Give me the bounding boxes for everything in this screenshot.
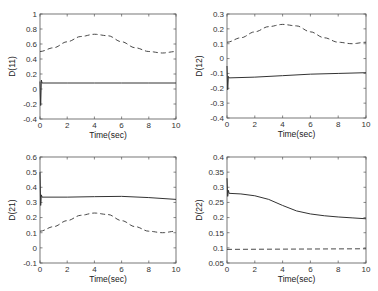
y-tick-label: 0.8	[26, 25, 38, 34]
x-tick-label: 6	[119, 121, 124, 130]
figure-canvas: 0246810-0.4-0.200.20.40.60.81Time(sec)D(…	[0, 0, 378, 291]
x-axis-label: Time(sec)	[278, 274, 316, 284]
y-tick-label: 0.35	[208, 168, 224, 177]
y-tick-label: 0.4	[213, 153, 225, 162]
axes-frame	[227, 157, 366, 263]
series-actual-line	[40, 213, 176, 233]
series-estimate-line	[227, 178, 366, 219]
x-tick-label: 6	[308, 265, 313, 274]
y-tick-label: -0.4	[210, 114, 224, 123]
y-axis-label: D(12)	[194, 55, 204, 76]
x-tick-label: 4	[92, 121, 97, 130]
x-tick-label: 10	[172, 121, 181, 130]
subplot-top-left: 0246810-0.4-0.200.20.40.60.81Time(sec)D(…	[7, 10, 181, 140]
y-tick-label: 0	[220, 54, 225, 63]
y-tick-label: 1	[33, 10, 38, 19]
series-actual-line	[40, 34, 176, 53]
series-estimate-line	[227, 66, 366, 90]
x-tick-label: 0	[225, 120, 230, 129]
x-tick-label: 2	[253, 265, 258, 274]
y-tick-label: 0.1	[213, 40, 225, 49]
y-tick-label: 0.15	[208, 229, 224, 238]
x-tick-label: 10	[172, 265, 181, 274]
y-axis-label: D(11)	[7, 56, 17, 77]
x-axis-label: Time(sec)	[89, 274, 127, 284]
y-tick-label: 0	[33, 85, 38, 94]
y-tick-label: 0.2	[213, 213, 225, 222]
y-tick-label: 0.3	[26, 198, 38, 207]
series-actual-line	[227, 24, 366, 43]
y-tick-label: -0.2	[210, 84, 224, 93]
y-tick-label: 0.6	[26, 40, 38, 49]
y-tick-label: 0.3	[213, 183, 225, 192]
x-tick-label: 4	[280, 265, 285, 274]
y-tick-label: -0.4	[23, 115, 37, 124]
y-tick-label: -0.1	[210, 69, 224, 78]
x-tick-label: 0	[225, 265, 230, 274]
y-tick-label: 0.2	[213, 25, 225, 34]
subplot-top-right: 0246810-0.4-0.3-0.2-0.100.10.20.3Time(se…	[194, 10, 371, 139]
x-tick-label: 10	[362, 120, 371, 129]
y-tick-label: 0.25	[208, 198, 224, 207]
x-tick-label: 8	[147, 265, 152, 274]
x-tick-label: 6	[308, 120, 313, 129]
series-actual-line	[227, 249, 366, 250]
x-tick-label: 6	[119, 265, 124, 274]
y-tick-label: 0.1	[213, 244, 225, 253]
x-tick-label: 4	[280, 120, 285, 129]
x-axis-label: Time(sec)	[278, 129, 316, 139]
x-tick-label: 10	[362, 265, 371, 274]
x-tick-label: 2	[65, 265, 70, 274]
axes-frame	[40, 157, 176, 263]
axes-frame	[40, 14, 176, 119]
y-tick-label: 0.6	[26, 153, 38, 162]
axes-frame	[227, 14, 366, 118]
y-tick-label: 0.1	[26, 229, 38, 238]
y-tick-label: 0.5	[26, 168, 38, 177]
y-tick-label: 0.4	[26, 183, 38, 192]
y-tick-label: 0.4	[26, 55, 38, 64]
y-tick-label: 0.3	[213, 10, 225, 19]
x-tick-label: 2	[253, 120, 258, 129]
x-tick-label: 8	[336, 120, 341, 129]
series-estimate-line	[40, 80, 176, 106]
x-tick-label: 2	[65, 121, 70, 130]
x-tick-label: 0	[38, 121, 43, 130]
y-axis-label: D(21)	[7, 199, 17, 220]
y-tick-label: -0.1	[23, 259, 37, 268]
y-tick-label: -0.2	[23, 100, 37, 109]
subplot-bottom-right: 02468100.050.10.150.20.250.30.350.4Time(…	[194, 153, 371, 284]
y-tick-label: 0	[33, 244, 38, 253]
x-tick-label: 8	[147, 121, 152, 130]
y-tick-label: 0.05	[208, 259, 224, 268]
x-tick-label: 4	[92, 265, 97, 274]
x-axis-label: Time(sec)	[89, 130, 127, 140]
y-axis-label: D(22)	[194, 199, 204, 220]
y-tick-label: 0.2	[26, 213, 38, 222]
subplot-bottom-left: 0246810-0.100.10.20.30.40.50.6Time(sec)D…	[7, 153, 181, 284]
x-tick-label: 8	[336, 265, 341, 274]
x-tick-label: 0	[38, 265, 43, 274]
y-tick-label: -0.3	[210, 99, 224, 108]
y-tick-label: 0.2	[26, 70, 38, 79]
series-estimate-line	[40, 172, 176, 205]
